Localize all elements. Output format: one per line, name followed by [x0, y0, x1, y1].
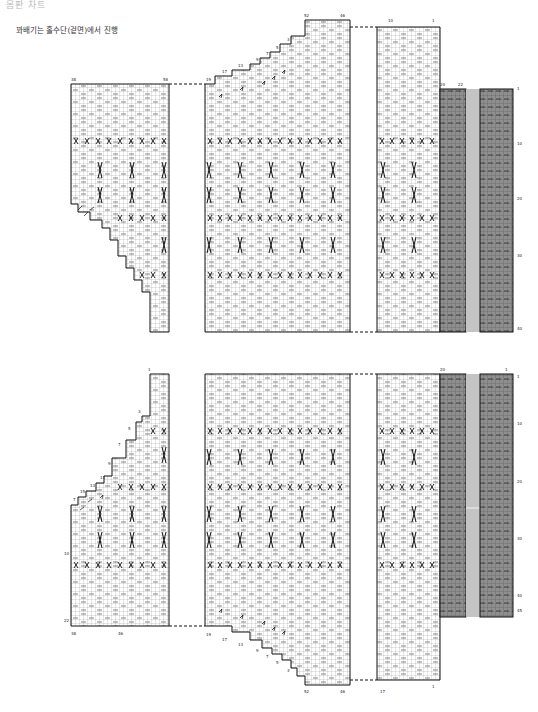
top-middle-piece	[205, 20, 350, 332]
bottom-right-piece	[377, 374, 440, 680]
bottom-chart: 1 71513 1197 53 1022 3846 191713 975 352…	[64, 367, 523, 694]
knitting-chart: 3858 191713 975 35246 101 2022 110 20304…	[0, 0, 538, 712]
svg-text:15: 15	[80, 489, 86, 494]
svg-text:45: 45	[517, 608, 523, 613]
svg-text:20: 20	[440, 82, 446, 87]
svg-text:30: 30	[517, 253, 523, 258]
svg-text:10: 10	[517, 421, 523, 426]
svg-text:1: 1	[505, 367, 508, 372]
svg-text:10: 10	[64, 551, 70, 556]
svg-text:20: 20	[517, 196, 523, 201]
bottom-ribbing	[440, 374, 513, 617]
svg-text:52: 52	[304, 689, 310, 694]
svg-text:46: 46	[340, 689, 346, 694]
svg-text:46: 46	[118, 631, 124, 636]
svg-text:1: 1	[148, 367, 151, 372]
svg-text:22: 22	[64, 618, 70, 623]
svg-text:13: 13	[90, 483, 96, 488]
svg-text:13: 13	[238, 642, 244, 647]
svg-text:22: 22	[458, 82, 464, 87]
svg-text:40: 40	[517, 326, 523, 331]
svg-text:11: 11	[100, 475, 106, 480]
svg-text:40: 40	[517, 593, 523, 598]
svg-text:5: 5	[128, 426, 131, 431]
svg-text:9: 9	[108, 461, 111, 466]
svg-text:19: 19	[206, 77, 212, 82]
top-left-piece	[71, 84, 169, 332]
svg-text:13: 13	[238, 63, 244, 68]
svg-text:3: 3	[138, 409, 141, 414]
svg-text:19: 19	[206, 632, 212, 637]
top-ribbing	[440, 89, 513, 332]
svg-text:20: 20	[440, 367, 446, 372]
svg-text:17: 17	[380, 689, 386, 694]
svg-text:7: 7	[266, 51, 269, 56]
svg-text:5: 5	[276, 660, 279, 665]
svg-text:52: 52	[304, 13, 310, 18]
svg-text:10: 10	[388, 18, 394, 23]
svg-text:58: 58	[163, 77, 169, 82]
top-chart: 3858 191713 975 35246 101 2022 110 20304…	[71, 13, 523, 332]
svg-text:10: 10	[517, 141, 523, 146]
svg-text:30: 30	[517, 536, 523, 541]
bottom-left-piece	[71, 374, 169, 626]
svg-text:38: 38	[71, 631, 77, 636]
svg-text:1: 1	[432, 684, 435, 689]
svg-text:17: 17	[222, 637, 228, 642]
svg-text:9: 9	[256, 57, 259, 62]
svg-text:20: 20	[517, 479, 523, 484]
svg-text:7: 7	[73, 497, 76, 502]
svg-text:3: 3	[287, 37, 290, 42]
svg-text:1: 1	[432, 18, 435, 23]
svg-text:1: 1	[517, 86, 520, 91]
svg-text:9: 9	[256, 648, 259, 653]
svg-text:7: 7	[266, 654, 269, 659]
svg-text:46: 46	[340, 13, 346, 18]
svg-text:1: 1	[517, 374, 520, 379]
svg-text:7: 7	[118, 442, 121, 447]
svg-text:3: 3	[287, 668, 290, 673]
top-right-piece	[377, 27, 440, 332]
svg-text:17: 17	[222, 69, 228, 74]
svg-text:5: 5	[276, 45, 279, 50]
svg-text:38: 38	[71, 77, 77, 82]
